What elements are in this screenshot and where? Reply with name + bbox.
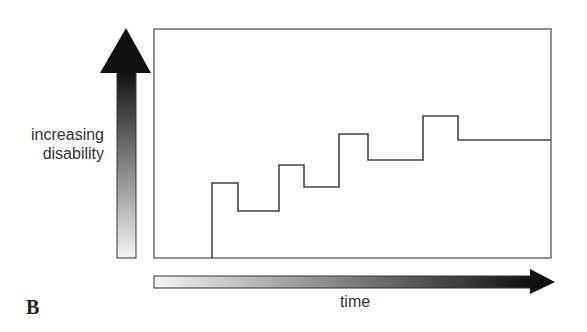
y-axis-label: increasing disability	[22, 125, 104, 163]
disability-step-line	[212, 116, 551, 258]
time-arrow-icon	[154, 269, 555, 294]
diagram-canvas	[0, 0, 587, 332]
x-axis-label: time	[330, 292, 380, 311]
y-label-line1: increasing	[22, 125, 104, 144]
disability-arrow-icon	[100, 28, 151, 258]
y-label-line2: disability	[22, 144, 104, 163]
plot-frame	[154, 29, 551, 258]
panel-label: B	[26, 298, 39, 317]
